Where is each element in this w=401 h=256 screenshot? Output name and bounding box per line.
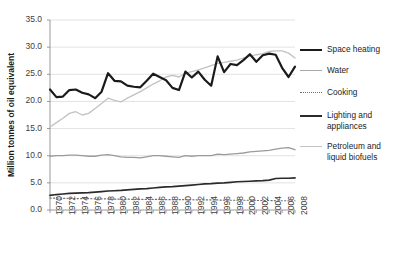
series-line-lighting-and-appliances: [50, 178, 295, 195]
line-chart: Million tonnes of oil equivalent 0.05.01…: [0, 0, 401, 256]
legend-swatch-water: [300, 65, 322, 77]
legend-item-water: Water: [300, 65, 401, 77]
legend-label-space-heating: Space heating: [327, 44, 380, 55]
legend-label-water: Water: [327, 65, 349, 76]
legend-swatch-cooking: [300, 87, 322, 99]
legend-swatch-petroleum-and-liquid-biofuels: [300, 141, 322, 153]
legend-item-cooking: Cooking: [300, 87, 401, 99]
legend-item-petroleum-and-liquid-biofuels: Petroleum and liquid biofuels: [300, 141, 401, 163]
legend-swatch-lighting-and-appliances: [300, 110, 322, 122]
chart-legend: Space heating Water Cooking Lighting and…: [300, 44, 401, 172]
legend-swatch-space-heating: [300, 44, 322, 56]
legend-label-lighting-and-appliances: Lighting and appliances: [327, 110, 401, 132]
legend-item-space-heating: Space heating: [300, 44, 401, 56]
series-line-water: [50, 148, 295, 158]
legend-item-lighting-and-appliances: Lighting and appliances: [300, 110, 401, 132]
series-line-cooking: [50, 198, 295, 201]
legend-label-petroleum-and-liquid-biofuels: Petroleum and liquid biofuels: [327, 141, 401, 163]
legend-label-cooking: Cooking: [327, 87, 357, 98]
